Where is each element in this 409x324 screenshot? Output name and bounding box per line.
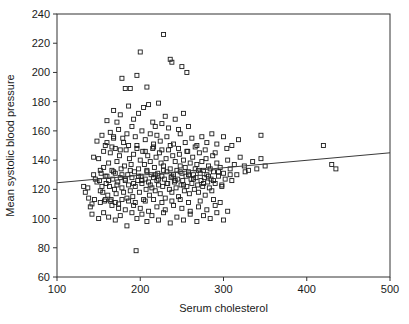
data-point: [132, 170, 136, 174]
data-point: [178, 132, 182, 136]
data-point: [217, 174, 221, 178]
data-point: [215, 211, 219, 215]
data-point: [183, 141, 187, 145]
data-point: [197, 205, 201, 209]
x-tick-label: 100: [48, 283, 66, 295]
data-point: [192, 177, 196, 181]
data-point: [178, 164, 182, 168]
data-point: [162, 177, 166, 181]
data-point: [141, 149, 145, 153]
data-point: [148, 132, 152, 136]
data-point: [148, 160, 152, 164]
data-point: [140, 181, 144, 185]
data-point: [190, 181, 194, 185]
x-tick-label: 300: [214, 283, 232, 295]
y-axis-ticks: 6080100120140160180200220240: [32, 8, 57, 283]
y-tick-label: 60: [38, 271, 50, 283]
x-axis-title: Serum cholesterol: [179, 302, 268, 314]
data-point: [87, 196, 91, 200]
data-point: [102, 149, 106, 153]
data-point: [210, 189, 214, 193]
data-point: [112, 187, 116, 191]
data-point: [175, 215, 179, 219]
data-point: [211, 154, 215, 158]
data-point: [83, 190, 87, 194]
data-point: [153, 125, 157, 129]
data-point: [100, 133, 104, 137]
data-point: [232, 162, 236, 166]
data-point: [154, 155, 158, 159]
data-point: [86, 186, 90, 190]
data-point: [115, 160, 119, 164]
data-point: [152, 198, 156, 202]
data-point: [197, 151, 201, 155]
data-point: [157, 151, 161, 155]
data-point: [147, 193, 151, 197]
data-point: [334, 167, 338, 171]
data-point: [185, 70, 189, 74]
data-point: [200, 160, 204, 164]
data-point: [127, 144, 131, 148]
data-point: [215, 142, 219, 146]
data-point: [170, 190, 174, 194]
data-point: [107, 215, 111, 219]
data-point: [129, 162, 133, 166]
data-point: [97, 157, 101, 161]
y-tick-label: 180: [32, 96, 50, 108]
data-point: [223, 177, 227, 181]
data-point: [113, 218, 117, 222]
data-point: [107, 179, 111, 183]
data-point: [205, 141, 209, 145]
data-point: [132, 117, 136, 121]
data-point: [207, 186, 211, 190]
data-point: [137, 111, 141, 115]
data-point: [143, 138, 147, 142]
data-point: [145, 170, 149, 174]
x-tick-label: 200: [131, 283, 149, 295]
data-point: [168, 221, 172, 225]
data-points-layer: [82, 32, 338, 252]
data-point: [130, 211, 134, 215]
data-point: [131, 195, 135, 199]
data-point: [188, 212, 192, 216]
data-point: [112, 136, 116, 140]
data-point: [145, 85, 149, 89]
x-tick-label: 400: [298, 283, 316, 295]
data-point: [204, 157, 208, 161]
data-point: [170, 199, 174, 203]
data-point: [92, 155, 96, 159]
data-point: [164, 157, 168, 161]
data-point: [173, 117, 177, 121]
data-point: [212, 198, 216, 202]
data-point: [121, 136, 125, 140]
data-point: [127, 104, 131, 108]
data-point: [177, 146, 181, 150]
data-point: [95, 139, 99, 143]
data-point: [134, 249, 138, 253]
data-point: [218, 165, 222, 169]
data-point: [143, 149, 147, 153]
data-point: [128, 168, 132, 172]
data-point: [150, 214, 154, 218]
data-point: [160, 148, 164, 152]
data-point: [182, 218, 186, 222]
y-tick-label: 200: [32, 66, 50, 78]
data-point: [135, 146, 139, 150]
data-point: [259, 133, 263, 137]
data-point: [159, 161, 163, 165]
data-point: [108, 130, 112, 134]
data-point: [194, 176, 198, 180]
data-point: [330, 162, 334, 166]
data-point: [120, 76, 124, 80]
data-point: [117, 206, 121, 210]
data-point: [182, 158, 186, 162]
data-point: [203, 193, 207, 197]
y-tick-label: 240: [32, 8, 50, 20]
y-axis-title: Mean systolic blood pressure: [4, 74, 16, 216]
data-point: [132, 152, 136, 156]
y-tick-label: 160: [32, 125, 50, 137]
data-point: [177, 152, 181, 156]
data-point: [138, 158, 142, 162]
data-point: [137, 190, 141, 194]
data-point: [173, 160, 177, 164]
